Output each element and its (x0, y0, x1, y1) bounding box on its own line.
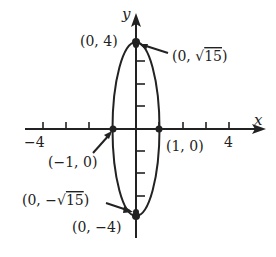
sqrt-icon: √ (195, 48, 204, 64)
arrow-top-focus-head-icon (139, 44, 148, 50)
label-top-focus: (0, √15) (172, 48, 228, 64)
label-right-covertex: (1, 0) (166, 138, 204, 154)
x-axis: x −4 4 (24, 111, 266, 150)
label-bottom-vertex: (0, −4) (72, 219, 121, 235)
y-axis-label: y (121, 5, 131, 23)
label-left-covertex: (−1, 0) (48, 154, 97, 170)
label-bottom-focus: (0, −√15) (22, 192, 89, 208)
label-top-vertex: (0, 4) (80, 33, 118, 49)
x-axis-label: x (254, 111, 263, 129)
point-bottom-vertex (132, 212, 140, 220)
sqrt-icon: √ (57, 192, 66, 208)
point-top-focus (133, 42, 139, 48)
arrow-bottom-focus-head-icon (123, 206, 133, 213)
x-tick-label-4: 4 (224, 134, 233, 150)
point-left-covertex (110, 126, 117, 133)
arrow-left-covertex-head-icon (104, 131, 112, 139)
ellipse-diagram: x −4 4 y (0, 4) ( (0, 0, 276, 257)
point-right-covertex (156, 126, 163, 133)
x-tick-label-neg4: −4 (24, 134, 45, 150)
